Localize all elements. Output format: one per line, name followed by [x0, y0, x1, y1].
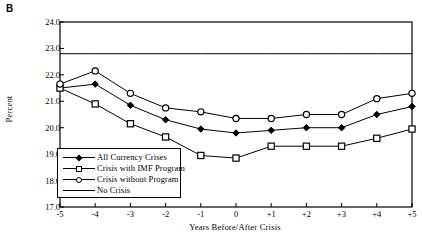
data-point-square [127, 121, 133, 127]
chart-container: B Percent Years Before/After Crisis 24.0… [0, 0, 422, 238]
plot-area [0, 0, 422, 238]
legend: All Currency Crises Crisis with IMF Prog… [57, 148, 181, 198]
y-axis-title: Percent [4, 81, 14, 137]
legend-label: Crisis with IMF Program [97, 163, 185, 174]
data-point-diamond [374, 111, 380, 117]
data-point-square [303, 143, 309, 149]
data-point-diamond [338, 125, 344, 131]
legend-symbol-plain-line [61, 185, 97, 196]
legend-label: No Crisis [97, 185, 130, 196]
data-point-circle [163, 105, 169, 111]
data-point-diamond [198, 126, 204, 132]
data-series-group [57, 54, 415, 161]
y-tick-label: 21.0 [34, 97, 60, 106]
data-point-diamond [162, 117, 168, 123]
y-tick-label: 24.0 [34, 18, 60, 27]
legend-symbol-filled-diamond [61, 152, 97, 163]
x-axis-tick-labels: -5-4-3-2-10+1+2+3+4+5 [0, 210, 422, 224]
data-point-square [268, 143, 274, 149]
data-point-diamond [409, 103, 415, 109]
data-point-diamond [268, 127, 274, 133]
legend-item: No Crisis [61, 185, 176, 196]
x-tick-label: -2 [151, 210, 181, 219]
data-point-square [339, 143, 345, 149]
y-tick-label: 22.0 [34, 71, 60, 80]
legend-symbol-open-square [61, 163, 97, 174]
data-point-circle [233, 115, 239, 121]
x-tick-label: +5 [397, 210, 422, 219]
x-tick-label: +3 [327, 210, 357, 219]
data-point-diamond [233, 130, 239, 136]
data-point-circle [339, 111, 345, 117]
legend-item: All Currency Crises [61, 152, 176, 163]
x-tick-label: +4 [362, 210, 392, 219]
data-point-circle [409, 90, 415, 96]
data-point-square [374, 135, 380, 141]
x-tick-label: 0 [221, 210, 251, 219]
legend-item: Crisis without Program [61, 174, 176, 185]
data-point-circle [127, 90, 133, 96]
x-tick-label: -5 [45, 210, 75, 219]
x-tick-label: -3 [115, 210, 145, 219]
x-tick-label: -1 [186, 210, 216, 219]
y-tick-label: 23.0 [34, 44, 60, 53]
data-point-circle [268, 115, 274, 121]
x-tick-label: +2 [291, 210, 321, 219]
data-point-diamond [127, 102, 133, 108]
x-tick-label: -4 [80, 210, 110, 219]
y-axis-tick-labels: 24.023.022.021.020.019.018.017.0 [30, 0, 60, 238]
data-point-circle [198, 109, 204, 115]
x-tick-label: +1 [256, 210, 286, 219]
data-point-circle [374, 96, 380, 102]
data-point-square [92, 101, 98, 107]
y-tick-label: 20.0 [34, 124, 60, 133]
data-point-square [409, 126, 415, 132]
legend-label: All Currency Crises [97, 152, 167, 163]
panel-label: B [6, 3, 13, 14]
legend-symbol-open-circle [61, 174, 97, 185]
data-point-square [198, 152, 204, 158]
legend-label: Crisis without Program [97, 174, 179, 185]
data-point-square [233, 155, 239, 161]
data-point-diamond [92, 81, 98, 87]
data-point-circle [303, 111, 309, 117]
legend-item: Crisis with IMF Program [61, 163, 176, 174]
data-point-circle [92, 68, 98, 74]
data-point-diamond [303, 125, 309, 131]
data-point-square [163, 134, 169, 140]
